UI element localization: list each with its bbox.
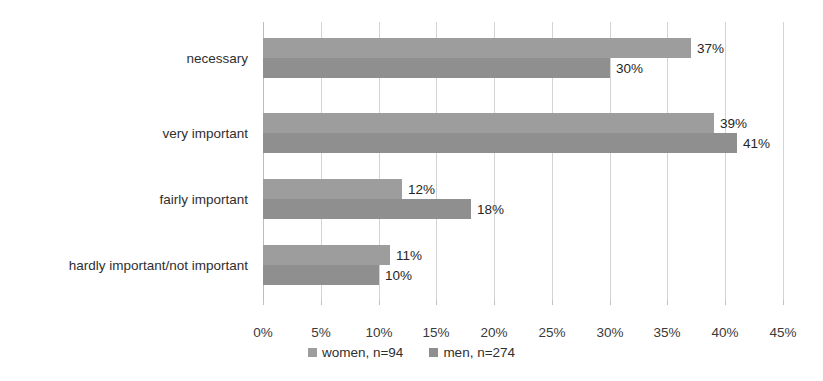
tick-mark-10 [379,300,380,305]
category-label-fairly-important: fairly important [159,192,248,207]
bar-women-very-important [263,113,714,133]
bar-value-women-hardly-important: 11% [396,248,422,263]
tick-mark-0 [263,300,264,305]
legend-swatch-icon-men [429,348,438,357]
bar-value-women-fairly-important: 12% [408,182,435,197]
x-tick-label-45: 45% [769,325,796,340]
bar-value-women-very-important: 39% [720,116,747,131]
bar-value-men-very-important: 41% [743,136,770,151]
category-label-very-important: very important [162,126,248,141]
chart-legend: women, n=94 men, n=274 [0,345,823,360]
x-tick-label-10: 10% [365,325,392,340]
x-tick-label-25: 25% [538,325,565,340]
category-label-necessary: necessary [186,51,248,66]
bar-men-hardly-important [263,265,379,285]
x-tick-label-0: 0% [253,325,273,340]
bar-men-very-important [263,133,737,153]
bar-men-necessary [263,58,610,78]
tick-mark-35 [667,300,668,305]
bar-women-hardly-important [263,245,390,265]
legend-label-men: men, n=274 [443,345,515,360]
x-tick-label-5: 5% [311,325,331,340]
tick-mark-25 [552,300,553,305]
gridline-35 [667,22,668,300]
legend-item-men: men, n=274 [429,345,515,360]
x-tick-label-40: 40% [711,325,738,340]
tick-mark-30 [610,300,611,305]
tick-mark-5 [321,300,322,305]
tick-mark-40 [725,300,726,305]
gridline-30 [610,22,611,300]
legend-label-women: women, n=94 [322,345,403,360]
bar-men-fairly-important [263,199,471,219]
x-tick-label-35: 35% [653,325,680,340]
bar-value-men-fairly-important: 18% [477,202,504,217]
bar-women-fairly-important [263,179,402,199]
legend-item-women: women, n=94 [308,345,403,360]
bar-value-men-necessary: 30% [616,61,643,76]
plot-area: 37% 30% 39% 41% 12% 18% 11% 10% 0% 5% 10… [263,22,783,300]
bar-value-men-hardly-important: 10% [385,268,412,283]
bar-chart: necessary very important fairly importan… [0,0,823,381]
x-tick-label-20: 20% [480,325,507,340]
tick-mark-15 [436,300,437,305]
gridline-45 [783,22,784,300]
tick-mark-45 [783,300,784,305]
bar-women-necessary [263,38,691,58]
x-tick-label-15: 15% [422,325,449,340]
tick-mark-20 [494,300,495,305]
category-label-hardly-important: hardly important/not important [69,258,248,273]
bar-value-women-necessary: 37% [697,41,724,56]
x-tick-label-30: 30% [596,325,623,340]
legend-swatch-icon-women [308,348,317,357]
gridline-40 [725,22,726,300]
